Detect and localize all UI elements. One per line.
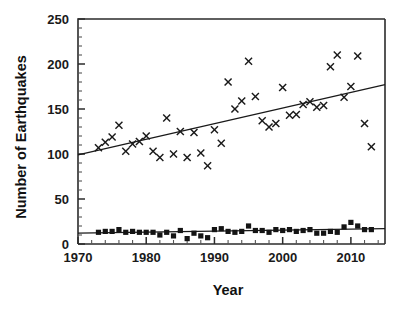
data-point-square [355,223,360,228]
data-point-cross [286,112,293,119]
data-point-cross [129,141,136,148]
data-point-cross [347,83,354,90]
x-axis-title: Year [213,282,244,298]
data-point-cross [190,129,197,136]
data-point-square [362,227,367,232]
data-point-square [341,224,346,229]
chart-svg: 050100150200250 19701980199020002010 Num… [0,0,409,310]
y-tick-label: 200 [47,57,69,72]
x-tick-label: 2010 [336,250,365,265]
data-point-square [253,228,258,233]
data-point-cross [272,120,279,127]
data-point-cross [231,106,238,113]
data-point-square [198,233,203,238]
data-point-cross [293,111,300,118]
data-point-cross [143,133,150,140]
data-point-cross [368,143,375,150]
data-point-square [287,227,292,232]
series-cross-markers [95,52,375,170]
y-axis-tick-labels: 050100150200250 [47,12,69,252]
data-point-square [321,231,326,236]
data-point-cross [204,162,211,169]
data-point-square [266,230,271,235]
data-point-square [219,226,224,231]
data-point-square [301,228,306,233]
data-point-square [103,229,108,234]
data-point-square [307,227,312,232]
data-point-cross [266,124,273,131]
data-point-cross [238,97,245,104]
data-point-cross [341,94,348,101]
data-point-square [191,231,196,236]
x-tick-label: 1990 [200,250,229,265]
data-point-square [157,232,162,237]
data-point-cross [313,104,320,111]
y-tick-label: 50 [55,192,69,207]
data-point-square [144,230,149,235]
data-point-square [164,230,169,235]
data-point-cross [361,120,368,127]
data-point-square [130,229,135,234]
data-point-cross [122,148,129,155]
data-point-square [348,220,353,225]
data-point-cross [334,52,341,59]
data-point-cross [279,84,286,91]
data-point-square [178,228,183,233]
data-point-square [150,230,155,235]
y-axis-ticks [78,19,85,244]
data-point-cross [211,126,218,133]
x-tick-label: 1970 [64,250,93,265]
y-axis-title: Number of Earthquakes [13,55,29,219]
y-tick-label: 100 [47,147,69,162]
data-point-square [294,229,299,234]
data-point-square [225,229,230,234]
data-point-square [328,229,333,234]
data-point-square [246,223,251,228]
data-point-square [205,235,210,240]
data-point-cross [109,133,116,140]
data-point-square [314,231,319,236]
data-point-square [273,227,278,232]
earthquake-scatter-chart: 050100150200250 19701980199020002010 Num… [0,0,409,310]
data-point-square [369,227,374,232]
data-point-cross [115,122,122,129]
series-square-markers [96,220,374,241]
cross-trend [78,85,385,155]
data-point-square [171,233,176,238]
data-point-cross [156,154,163,161]
data-point-cross [163,115,170,122]
data-point-cross [354,52,361,59]
y-tick-label: 150 [47,102,69,117]
data-point-cross [184,154,191,161]
x-axis-ticks [78,237,378,244]
data-point-square [280,228,285,233]
x-axis-tick-labels: 19701980199020002010 [64,250,366,265]
data-point-cross [225,79,232,86]
data-point-square [239,229,244,234]
data-point-square [232,230,237,235]
x-tick-label: 2000 [268,250,297,265]
data-point-square [110,229,115,234]
data-point-cross [259,117,266,124]
data-point-square [335,230,340,235]
trend-lines [78,85,385,234]
data-point-square [123,230,128,235]
data-point-cross [252,93,259,100]
data-point-square [116,227,121,232]
data-point-cross [197,150,204,157]
data-point-cross [150,148,157,155]
data-point-square [185,236,190,241]
data-point-square [96,230,101,235]
data-point-cross [320,102,327,109]
x-tick-label: 1980 [132,250,161,265]
data-point-cross [245,58,252,65]
data-point-cross [102,139,109,146]
data-point-cross [218,140,225,147]
data-point-cross [170,151,177,158]
y-tick-label: 250 [47,12,69,27]
data-point-square [137,230,142,235]
data-point-square [212,227,217,232]
data-point-cross [327,63,334,70]
data-point-square [260,228,265,233]
